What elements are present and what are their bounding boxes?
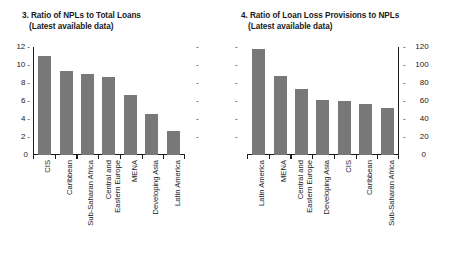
x-tick-mark <box>290 155 291 159</box>
chart-4-title: 4. Ratio of Loan Loss Provisions to NPLs… <box>241 11 454 32</box>
x-label-slot: Sub-Saharan Africa <box>377 160 399 256</box>
bar-slot <box>98 47 119 155</box>
y-tick-label: 8- <box>21 79 30 87</box>
bar-slot <box>248 47 269 155</box>
y-tick-label: 0 <box>403 151 426 159</box>
y-tick-mark: - <box>196 97 199 105</box>
bar <box>274 76 287 155</box>
x-label-slot: Developing Asia <box>312 160 334 256</box>
chart-3-title: 3. Ratio of NPLs to Total Loans (Latest … <box>22 11 227 32</box>
bar <box>60 71 73 155</box>
y-tick-mark: - <box>235 79 238 87</box>
bar-slot <box>377 47 398 155</box>
y-tick-label: 2- <box>21 133 30 141</box>
y-tick-mark: - <box>235 61 238 69</box>
x-tick-mark <box>184 155 185 159</box>
bar-slot <box>269 47 290 155</box>
y-tick-label: -40 <box>403 115 429 123</box>
x-tick-label: Developing Asia <box>152 160 161 214</box>
y-tick-label: -120 <box>403 43 429 51</box>
x-label-slot: Central andEastern Europe <box>290 160 312 256</box>
bar <box>81 74 94 155</box>
x-tick-label: Sub-Saharan Africa <box>388 160 397 226</box>
x-label-slot: Caribbean <box>356 160 378 256</box>
bar <box>124 95 137 155</box>
y-tick-label: 0 <box>24 151 30 159</box>
x-tick-mark <box>398 155 399 159</box>
x-tick-mark <box>98 155 99 159</box>
x-label-slot: CIS <box>33 160 55 256</box>
y-tick-mark: - <box>196 133 199 141</box>
x-tick-mark <box>377 155 378 159</box>
x-tick-label: CIS <box>345 160 354 173</box>
x-label-slot: MENA <box>269 160 291 256</box>
bar <box>359 104 372 155</box>
chart-3-x-tick-labels: CISCaribbeanSub-Saharan AfricaCentral an… <box>33 160 185 256</box>
x-label-slot: MENA <box>120 160 142 256</box>
y-tick-mark: - <box>235 133 238 141</box>
y-tick-mark: - <box>196 43 199 51</box>
y-tick-label: 6- <box>21 97 30 105</box>
chart-4-plot-area <box>247 47 399 155</box>
chart-3-subtitle: (Latest available data) <box>22 22 227 33</box>
chart-3-title-line1: 3. Ratio of NPLs to Total Loans <box>22 11 227 22</box>
x-tick-mark <box>55 155 56 159</box>
y-tick-label: 4- <box>21 115 30 123</box>
x-tick-mark <box>247 155 248 159</box>
x-tick-label: MENA <box>131 160 140 182</box>
y-tick-label: 12- <box>16 43 30 51</box>
y-tick-mark: - <box>196 115 199 123</box>
bar <box>316 100 329 155</box>
x-tick-label: Caribbean <box>66 160 75 195</box>
bar <box>167 131 180 155</box>
y-tick-label: -80 <box>403 79 429 87</box>
x-tick-mark <box>142 155 143 159</box>
chart-4-title-line1: 4. Ratio of Loan Loss Provisions to NPLs <box>241 11 454 22</box>
bar-slot <box>120 47 141 155</box>
x-label-slot: Central andEastern Europe <box>98 160 120 256</box>
x-tick-mark <box>312 155 313 159</box>
x-label-slot: Latin America <box>247 160 269 256</box>
bar <box>381 108 394 155</box>
bar-slot <box>141 47 162 155</box>
x-label-slot: Caribbean <box>55 160 77 256</box>
x-label-slot: Developing Asia <box>142 160 164 256</box>
chart-panel-4: 4. Ratio of Loan Loss Provisions to NPLs… <box>227 0 454 258</box>
y-tick-mark: - <box>196 79 199 87</box>
bar-slot <box>334 47 355 155</box>
bar-slot <box>55 47 76 155</box>
x-tick-mark <box>356 155 357 159</box>
chart-panel-3: 3. Ratio of NPLs to Total Loans (Latest … <box>0 0 227 258</box>
x-tick-label: Developing Asia <box>323 160 332 214</box>
x-tick-mark <box>120 155 121 159</box>
bar <box>252 49 265 155</box>
bar <box>338 101 351 155</box>
bar-slot <box>355 47 376 155</box>
x-tick-label: Sub-Saharan Africa <box>87 160 96 226</box>
x-tick-label: CIS <box>44 160 53 173</box>
bar <box>38 56 51 155</box>
bar-slot <box>34 47 55 155</box>
figure-container: 3. Ratio of NPLs to Total Loans (Latest … <box>0 0 454 258</box>
x-tick-mark <box>33 155 34 159</box>
y-tick-label: -100 <box>403 61 429 69</box>
y-tick-mark: - <box>235 97 238 105</box>
chart-3-bars <box>33 47 185 155</box>
chart-4-subtitle: (Latest available data) <box>241 22 454 33</box>
x-tick-label: MENA <box>280 160 289 182</box>
y-tick-label: 10- <box>16 61 30 69</box>
bar-slot <box>163 47 184 155</box>
x-tick-mark <box>334 155 335 159</box>
chart-3-plot-area <box>33 47 185 155</box>
bar-slot <box>291 47 312 155</box>
x-tick-label: Latin America <box>174 160 183 206</box>
x-tick-label: Latin America <box>258 160 267 206</box>
y-tick-label: -60 <box>403 97 429 105</box>
bar-slot <box>312 47 333 155</box>
x-label-slot: Latin America <box>163 160 185 256</box>
x-tick-mark <box>76 155 77 159</box>
x-label-slot: CIS <box>334 160 356 256</box>
y-tick-mark: - <box>235 43 238 51</box>
x-label-slot: Sub-Saharan Africa <box>76 160 98 256</box>
y-tick-mark: - <box>235 115 238 123</box>
